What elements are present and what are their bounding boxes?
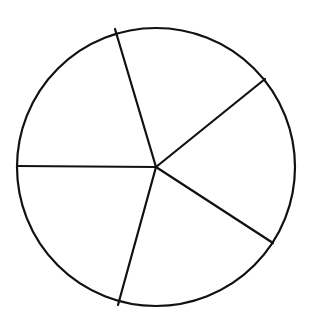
radius-upper-right xyxy=(156,79,265,167)
pie-diagram xyxy=(0,0,312,332)
radius-bottom xyxy=(118,167,156,305)
radius-top xyxy=(115,29,156,167)
radius-left xyxy=(17,166,156,167)
radius-lower-right xyxy=(156,167,273,243)
